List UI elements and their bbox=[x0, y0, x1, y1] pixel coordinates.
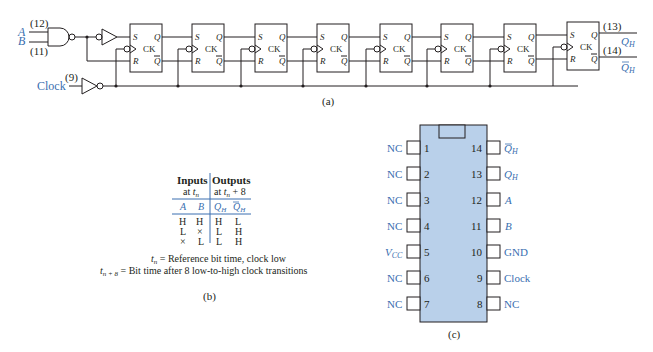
svg-text:Q: Q bbox=[154, 32, 161, 42]
flip-flop-8: S R CK Q Q bbox=[561, 22, 599, 70]
flip-flop-2: S R CK Q Q bbox=[186, 24, 224, 72]
svg-text:L: L bbox=[216, 236, 222, 247]
pin-label-8: NC bbox=[504, 298, 519, 310]
pin-num-6: 6 bbox=[424, 272, 430, 284]
pin-num-8: 8 bbox=[477, 298, 483, 310]
svg-text:R: R bbox=[569, 54, 576, 64]
svg-text:Q: Q bbox=[591, 30, 598, 40]
svg-text:R: R bbox=[506, 56, 513, 66]
pin-label-12: A bbox=[504, 194, 512, 206]
svg-text:R: R bbox=[257, 56, 264, 66]
flip-flop-1: S R CK Q Q bbox=[124, 24, 162, 72]
flip-flop-6: S R CK Q Q bbox=[435, 24, 473, 72]
svg-text:S: S bbox=[133, 32, 138, 42]
svg-text:Q: Q bbox=[528, 32, 535, 42]
pin-label-10: GND bbox=[504, 246, 528, 258]
note-tn8: tn + 8 = Bit time after 8 low-to-high cl… bbox=[100, 265, 308, 278]
caption-a: (a) bbox=[322, 95, 335, 108]
svg-text:Q: Q bbox=[404, 56, 411, 66]
pin-num-12: 12 bbox=[471, 194, 482, 206]
pin-label-9: Clock bbox=[504, 272, 531, 284]
table-row: L × L H bbox=[180, 226, 242, 237]
pin-num-5: 5 bbox=[424, 246, 430, 258]
pin-label-6: NC bbox=[387, 272, 402, 284]
inverter-icon bbox=[96, 29, 117, 45]
logic-diagram: (12) A B (11) (9) Clock bbox=[17, 17, 637, 108]
svg-text:CK: CK bbox=[268, 44, 281, 54]
clock-input-label: Clock bbox=[37, 79, 66, 93]
clock-inverter-icon bbox=[82, 78, 103, 94]
ic-pinout: 1 2 3 4 5 6 7 14 13 12 11 10 9 8 NC NC N… bbox=[385, 125, 531, 341]
col-b: B bbox=[198, 201, 204, 212]
pin-num-9: 9 bbox=[477, 272, 483, 284]
pin-label-7: NC bbox=[387, 298, 402, 310]
svg-text:Q: Q bbox=[465, 32, 472, 42]
svg-text:Q: Q bbox=[341, 32, 348, 42]
pin-num-11: 11 bbox=[471, 220, 482, 232]
svg-text:CK: CK bbox=[454, 44, 467, 54]
pin-num-13: 13 bbox=[471, 168, 483, 180]
svg-text:Q: Q bbox=[465, 56, 472, 66]
svg-text:Q: Q bbox=[216, 56, 223, 66]
pin-label-2: NC bbox=[387, 168, 402, 180]
output-qhbar-label: QH bbox=[621, 61, 636, 75]
pin-num-14: 14 bbox=[471, 142, 483, 154]
pin-label-3: NC bbox=[387, 194, 402, 206]
pin-num-10: 10 bbox=[471, 246, 483, 258]
svg-text:S: S bbox=[383, 32, 388, 42]
svg-text:CK: CK bbox=[393, 44, 406, 54]
table-row: × L L H bbox=[180, 236, 242, 247]
col-qhbar: QH bbox=[233, 201, 246, 214]
pin-num-3: 3 bbox=[424, 194, 430, 206]
caption-b: (b) bbox=[203, 290, 216, 303]
svg-text:CK: CK bbox=[205, 44, 218, 54]
svg-text:S: S bbox=[444, 32, 449, 42]
svg-text:CK: CK bbox=[330, 44, 343, 54]
svg-text:R: R bbox=[319, 56, 326, 66]
svg-text:H: H bbox=[235, 236, 242, 247]
output-qh-label: QH bbox=[621, 35, 636, 49]
svg-text:R: R bbox=[132, 56, 139, 66]
svg-text:Q: Q bbox=[279, 56, 286, 66]
pin-12-label: (12) bbox=[30, 17, 49, 30]
svg-text:CK: CK bbox=[580, 42, 593, 52]
col-qh: QH bbox=[214, 201, 227, 214]
pin-num-1: 1 bbox=[424, 142, 430, 154]
flip-flop-chain: S R CK Q Q S R CK Q Q bbox=[124, 22, 599, 72]
svg-text:S: S bbox=[195, 32, 200, 42]
pin-num-2: 2 bbox=[424, 168, 430, 180]
svg-text:Q: Q bbox=[528, 56, 535, 66]
flip-flop-4: S R CK Q Q bbox=[311, 24, 349, 72]
svg-text:S: S bbox=[570, 30, 575, 40]
svg-text:R: R bbox=[443, 56, 450, 66]
right-pins bbox=[487, 141, 500, 310]
pin-label-4: NC bbox=[387, 220, 402, 232]
svg-text:CK: CK bbox=[143, 44, 156, 54]
ic-notch bbox=[439, 125, 465, 138]
shift-register-figure: (12) A B (11) (9) Clock bbox=[0, 0, 653, 352]
svg-text:Q: Q bbox=[404, 32, 411, 42]
svg-text:Q: Q bbox=[154, 56, 161, 66]
left-pins bbox=[407, 141, 420, 310]
input-b-label: B bbox=[18, 34, 26, 48]
svg-text:S: S bbox=[507, 32, 512, 42]
svg-text:Q: Q bbox=[591, 54, 598, 64]
svg-text:Q: Q bbox=[279, 32, 286, 42]
col-a: A bbox=[179, 201, 187, 212]
svg-text:R: R bbox=[382, 56, 389, 66]
pin-num-4: 4 bbox=[424, 220, 430, 232]
pin-11-label: (11) bbox=[30, 45, 48, 58]
svg-text:L: L bbox=[198, 236, 204, 247]
pin-label-5: VCC bbox=[385, 246, 403, 260]
svg-text:S: S bbox=[320, 32, 325, 42]
pin-label-13: QH bbox=[504, 168, 519, 182]
svg-text:×: × bbox=[180, 236, 186, 247]
caption-c: (c) bbox=[448, 328, 461, 341]
svg-text:R: R bbox=[194, 56, 201, 66]
pin-label-1: NC bbox=[387, 142, 402, 154]
table-header-inputs: Inputs bbox=[177, 174, 208, 186]
svg-text:Q: Q bbox=[216, 32, 223, 42]
truth-table: Inputs Outputs at tn at tn + 8 A B QH QH… bbox=[100, 173, 308, 303]
table-sub-outputs: at tn + 8 bbox=[214, 186, 246, 199]
nand-gate-icon bbox=[48, 28, 75, 46]
